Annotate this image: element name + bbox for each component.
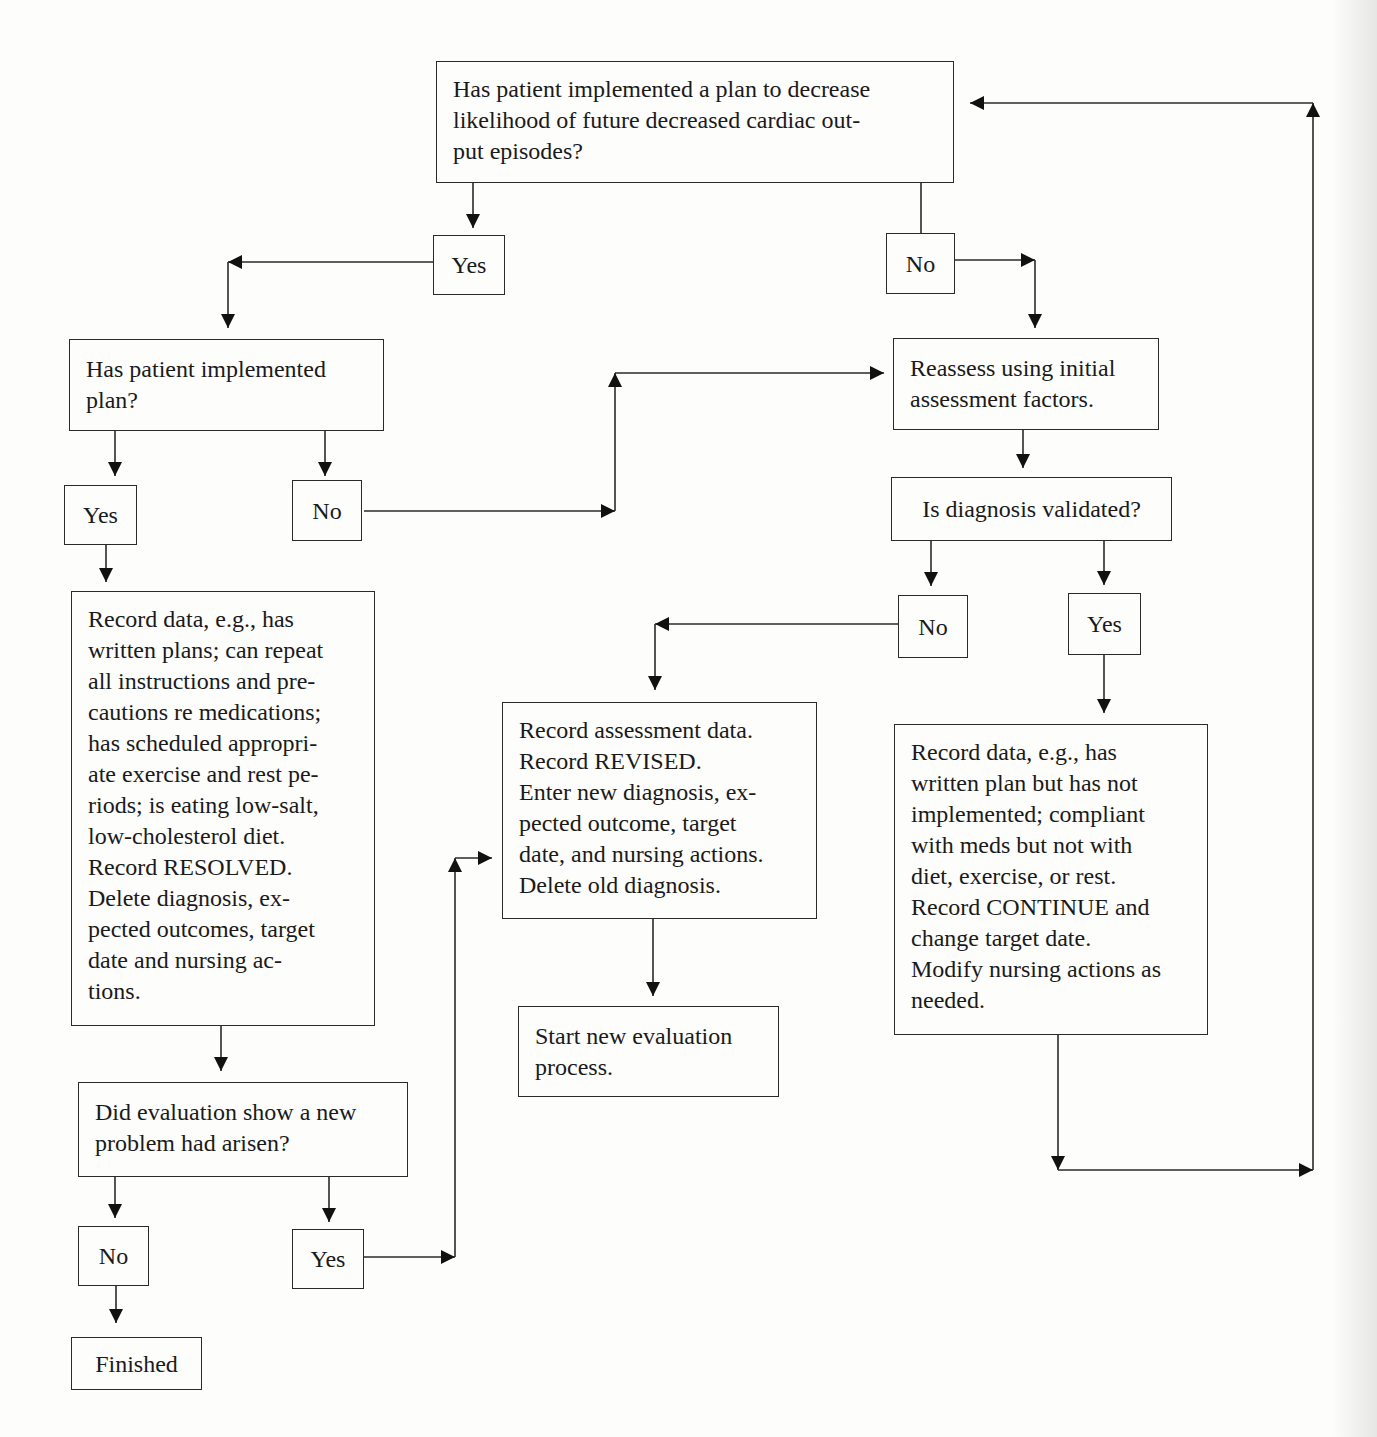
- record-resolved-box: Record data, e.g., has written plans; ca…: [71, 591, 375, 1026]
- answer-yes-new-problem: Yes: [292, 1229, 364, 1289]
- question-new-problem: Did evaluation show a new problem had ar…: [78, 1082, 408, 1177]
- answer-yes-validated: Yes: [1068, 593, 1141, 655]
- answer-yes-plan: Yes: [433, 235, 505, 295]
- start-new-evaluation-box: Start new evaluation process.: [518, 1006, 779, 1097]
- record-continue-box: Record data, e.g., has written plan but …: [894, 724, 1208, 1035]
- answer-no-plan: No: [886, 233, 955, 294]
- finished-box: Finished: [71, 1337, 202, 1390]
- reassess-box: Reassess using initial assessment factor…: [893, 338, 1159, 430]
- question-plan-to-decrease-episodes: Has patient implemented a plan to decrea…: [436, 61, 954, 183]
- question-implemented-plan: Has patient implemented plan?: [69, 339, 384, 431]
- record-revised-box: Record assessment data. Record REVISED. …: [502, 702, 817, 919]
- question-diagnosis-validated: Is diagnosis validated?: [891, 477, 1172, 541]
- answer-yes-implemented: Yes: [64, 485, 137, 545]
- answer-no-new-problem: No: [78, 1226, 149, 1286]
- answer-no-validated: No: [898, 595, 968, 658]
- answer-no-implemented: No: [292, 480, 362, 541]
